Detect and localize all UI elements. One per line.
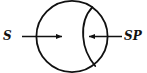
label-s: S (3, 30, 12, 42)
label-sp: SP (124, 30, 142, 42)
